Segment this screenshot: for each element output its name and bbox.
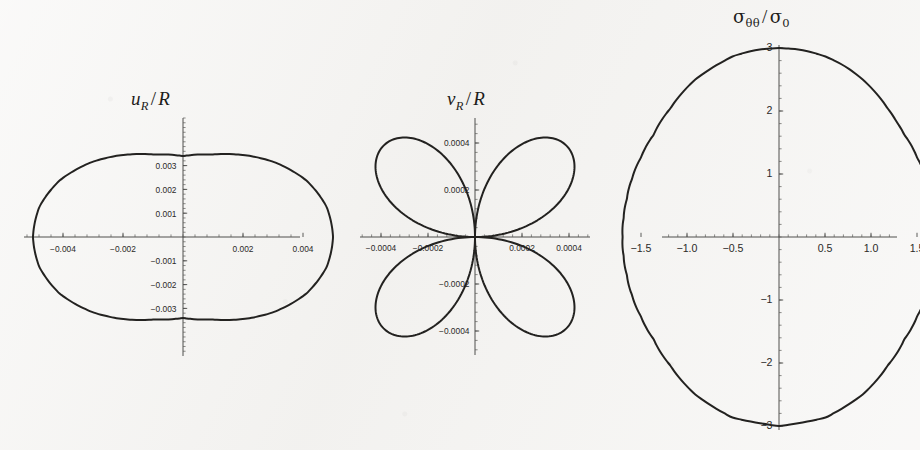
polar-plot-figure: −0.004−0.0020.0020.004−0.003−0.002−0.001… — [0, 0, 920, 450]
y-tick-label: −1 — [760, 293, 772, 305]
axes-sigma — [662, 45, 897, 430]
title-u-slash: / — [149, 88, 159, 109]
plot-panel-u-r: −0.004−0.0020.0020.004−0.003−0.002−0.001… — [0, 0, 320, 450]
title-v-subscript: R — [456, 99, 464, 113]
title-u-numerator: u — [131, 88, 141, 109]
title-sigma-denominator: σ0 — [770, 6, 790, 27]
plot-svg-sigma: −1.5−1.0−0.50.51.01.5−3−2−1123 — [612, 0, 920, 450]
y-tick-label: 2 — [767, 104, 773, 116]
y-tick-label: 0.002 — [156, 185, 177, 195]
title-sigma-subscript: θθ — [746, 16, 760, 30]
plot-svg-v-r: −0.0004−0.00020.00020.0004−0.0004−0.0002… — [310, 0, 620, 450]
x-tick-label: 0.0004 — [556, 243, 582, 253]
y-tick-label: −0.002 — [151, 280, 177, 290]
plot-title-sigma: σθθ/σ0 — [733, 6, 790, 28]
plot-panel-v-r: −0.0004−0.00020.00020.0004−0.0004−0.0002… — [310, 0, 620, 450]
y-tick-label: 0.003 — [156, 161, 177, 171]
tick-labels-sigma: −1.5−1.0−0.50.51.01.5−3−2−1123 — [631, 41, 920, 431]
title-u-denominator: R — [158, 88, 170, 109]
plot-title-u-r: uR/R — [131, 88, 170, 114]
y-tick-label: 3 — [767, 41, 773, 53]
plot-title-v-r: vR/R — [447, 88, 485, 114]
x-tick-label: −1.0 — [677, 242, 698, 254]
x-tick-label: −0.004 — [50, 244, 76, 254]
y-tick-label: 0.001 — [156, 209, 177, 219]
x-tick-label: −0.0004 — [366, 243, 397, 253]
y-tick-label: −0.0004 — [439, 326, 470, 336]
title-v-denominator: R — [473, 88, 485, 109]
title-v-slash: / — [464, 88, 474, 109]
y-tick-label: −0.003 — [151, 304, 177, 314]
title-sigma-denom-symbol: σ — [770, 6, 783, 27]
plot-svg-u-r: −0.004−0.0020.0020.004−0.003−0.002−0.001… — [0, 0, 320, 450]
x-tick-label: 1.0 — [864, 242, 879, 254]
x-tick-label: −1.5 — [631, 242, 652, 254]
x-tick-label: −0.002 — [110, 244, 136, 254]
x-tick-label: −0.5 — [723, 242, 744, 254]
x-tick-label: 1.5 — [910, 242, 920, 254]
plot-panel-sigma: −1.5−1.0−0.50.51.01.5−3−2−1123 — [612, 0, 920, 450]
y-tick-label: −0.001 — [151, 256, 177, 266]
title-v-numerator: v — [447, 88, 456, 109]
y-tick-label: −2 — [760, 356, 772, 368]
x-tick-label: 0.5 — [818, 242, 833, 254]
title-sigma-denom-subscript: 0 — [782, 16, 790, 30]
y-tick-label: 0.0004 — [444, 138, 470, 148]
title-sigma-numerator: σθθ — [733, 6, 760, 27]
y-tick-label: 1 — [767, 167, 773, 179]
x-tick-label: 0.002 — [233, 244, 254, 254]
title-sigma-symbol: σ — [733, 6, 746, 27]
title-u-subscript: R — [141, 99, 149, 113]
title-sigma-slash: / — [760, 6, 770, 27]
